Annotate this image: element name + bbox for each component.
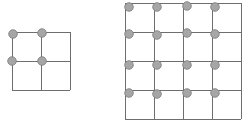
dot xyxy=(211,30,220,39)
grid-4x4 xyxy=(125,2,242,120)
dot xyxy=(183,29,192,38)
dot xyxy=(38,29,47,38)
dot xyxy=(183,89,192,98)
dot xyxy=(125,30,134,39)
dot xyxy=(183,2,192,11)
dot xyxy=(211,89,220,98)
dot xyxy=(9,30,18,39)
dot xyxy=(125,3,134,12)
dot xyxy=(125,61,134,70)
dot xyxy=(183,61,192,70)
dot xyxy=(153,3,162,12)
dot xyxy=(153,31,162,40)
dot xyxy=(153,90,162,99)
dot xyxy=(153,61,162,70)
grid-diagram xyxy=(0,0,244,122)
dot xyxy=(8,57,17,66)
dot xyxy=(38,57,47,66)
dot xyxy=(125,89,134,98)
dot xyxy=(211,61,220,70)
grid-2x2 xyxy=(8,29,71,91)
dot xyxy=(211,3,220,12)
